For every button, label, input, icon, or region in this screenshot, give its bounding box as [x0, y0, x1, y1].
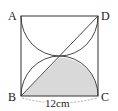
vertex-label-b: B	[8, 91, 16, 103]
upper-semicircle	[21, 16, 98, 56]
vertex-label-d: D	[101, 10, 110, 22]
shaded-region	[21, 58, 98, 97]
side-length-label: 12cm	[44, 98, 70, 109]
vertex-label-c: C	[101, 91, 109, 103]
vertex-label-a: A	[8, 10, 17, 22]
